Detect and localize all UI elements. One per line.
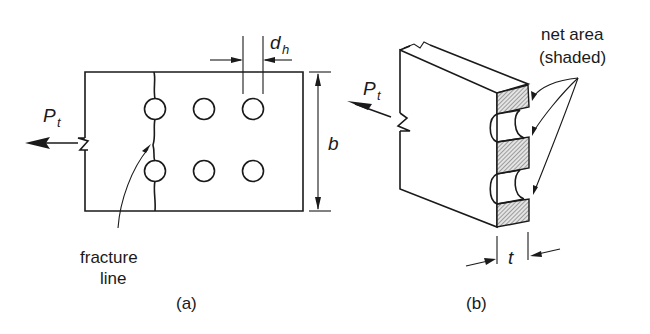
net-area-shaded (497, 85, 529, 227)
panel-a-plan-view: P t fracture line d h (25, 32, 339, 313)
break-symbol-icon (78, 138, 88, 150)
bolt-holes (145, 99, 264, 182)
panel-b-isometric-view: P t net area (shaded) t (b) (347, 25, 606, 313)
net-area-leader-arrows (531, 78, 578, 195)
width-label: b (328, 133, 339, 154)
fracture-label-line1: fracture (80, 248, 138, 267)
hole-diameter-subscript: h (282, 42, 289, 57)
break-symbol-icon (398, 113, 410, 131)
hole-diameter-label: d (270, 32, 282, 53)
hole (243, 161, 264, 182)
force-subscript-b: t (377, 88, 382, 103)
thickness-label: t (508, 247, 514, 268)
hole (145, 161, 166, 182)
plate-top-face (400, 45, 528, 93)
caption-b: (b) (466, 294, 487, 313)
tension-force-arrow (347, 101, 391, 117)
hole (194, 99, 215, 120)
caption-a: (a) (176, 294, 197, 313)
fracture-label-line2: line (100, 269, 126, 288)
force-label-a: P (43, 105, 56, 126)
hole (194, 161, 215, 182)
net-area-label-line1: net area (541, 25, 604, 44)
fracture-line (153, 72, 155, 211)
fracture-leader-arrow (118, 144, 151, 228)
force-subscript-a: t (57, 115, 62, 130)
plate-outline (85, 72, 303, 211)
force-label-b: P (363, 78, 376, 99)
hole (243, 99, 264, 120)
tension-force-arrow (25, 137, 78, 149)
tension-member-diagram: P t fracture line d h (0, 0, 650, 334)
plate-front-face (400, 50, 497, 227)
net-area-label-line2: (shaded) (539, 48, 606, 67)
hole (145, 99, 166, 120)
